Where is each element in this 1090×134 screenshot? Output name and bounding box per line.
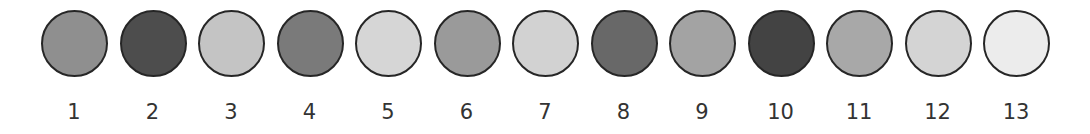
swatch-12: 12 <box>899 0 977 134</box>
swatch-label: 12 <box>899 98 977 126</box>
swatch-circle <box>983 10 1050 77</box>
swatch-5: 5 <box>349 0 427 134</box>
swatch-11: 11 <box>820 0 898 134</box>
swatch-circle <box>41 10 108 77</box>
swatch-label: 10 <box>742 98 820 126</box>
swatch-label: 8 <box>585 98 663 126</box>
swatch-label: 1 <box>35 98 113 126</box>
swatch-label: 9 <box>663 98 741 126</box>
swatch-circle <box>591 10 658 77</box>
swatch-13: 13 <box>977 0 1055 134</box>
swatch-circle <box>512 10 579 77</box>
grayscale-swatch-row: 1 2 3 4 5 6 7 8 9 10 11 12 <box>0 0 1090 134</box>
swatch-10: 10 <box>742 0 820 134</box>
swatch-label: 2 <box>114 98 192 126</box>
swatch-9: 9 <box>663 0 741 134</box>
swatch-circle <box>434 10 501 77</box>
swatch-6: 6 <box>428 0 506 134</box>
swatch-3: 3 <box>192 0 270 134</box>
swatch-label: 3 <box>192 98 270 126</box>
swatch-circle <box>669 10 736 77</box>
swatch-8: 8 <box>585 0 663 134</box>
swatch-2: 2 <box>114 0 192 134</box>
swatch-label: 13 <box>977 98 1055 126</box>
swatch-7: 7 <box>506 0 584 134</box>
swatch-label: 11 <box>820 98 898 126</box>
swatch-label: 7 <box>506 98 584 126</box>
swatch-label: 5 <box>349 98 427 126</box>
swatch-circle <box>355 10 422 77</box>
swatch-label: 4 <box>271 98 349 126</box>
swatch-4: 4 <box>271 0 349 134</box>
swatch-1: 1 <box>35 0 113 134</box>
swatch-circle <box>748 10 815 77</box>
swatch-circle <box>826 10 893 77</box>
swatch-circle <box>277 10 344 77</box>
swatch-circle <box>198 10 265 77</box>
swatch-label: 6 <box>428 98 506 126</box>
swatch-circle <box>905 10 972 77</box>
swatch-circle <box>120 10 187 77</box>
